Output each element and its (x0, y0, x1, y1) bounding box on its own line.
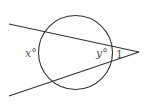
near-arc-label: y° (95, 47, 108, 60)
angle-label: 1 (116, 48, 123, 61)
far-arc-label: x° (25, 47, 37, 60)
secant-diagram: x° y° 1 (0, 0, 154, 108)
